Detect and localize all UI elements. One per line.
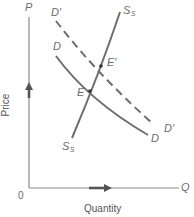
demand-shifted-curve [56, 21, 152, 123]
equilibrium-label-e: E [77, 87, 84, 98]
y-axis-title: Price [1, 94, 11, 117]
supply-demand-diagram: P Q 0 Quantity Price D′ D′ D D SS SS E E… [0, 0, 194, 217]
supply-label-bottom: SS [62, 141, 75, 153]
price-up-arrow-icon [25, 82, 33, 98]
demand-curve [56, 56, 148, 135]
demand-shifted-label-top: D′ [51, 7, 61, 18]
x-axis-symbol: Q [181, 182, 190, 193]
x-axis-title: Quantity [84, 204, 121, 214]
demand-label-bottom: D [151, 133, 159, 144]
demand-label-top: D [53, 41, 61, 52]
demand-shifted-label-bottom: D′ [164, 123, 174, 134]
equilibrium-label-e-prime: E′ [107, 57, 116, 68]
equilibrium-point-e [88, 89, 92, 93]
y-axis-symbol: P [25, 2, 32, 13]
equilibrium-point-e-prime [99, 64, 103, 68]
supply-label-top: SS [123, 5, 136, 17]
origin-label: 0 [18, 191, 24, 201]
supply-curve [72, 12, 120, 138]
quantity-right-arrow-icon [89, 184, 112, 192]
